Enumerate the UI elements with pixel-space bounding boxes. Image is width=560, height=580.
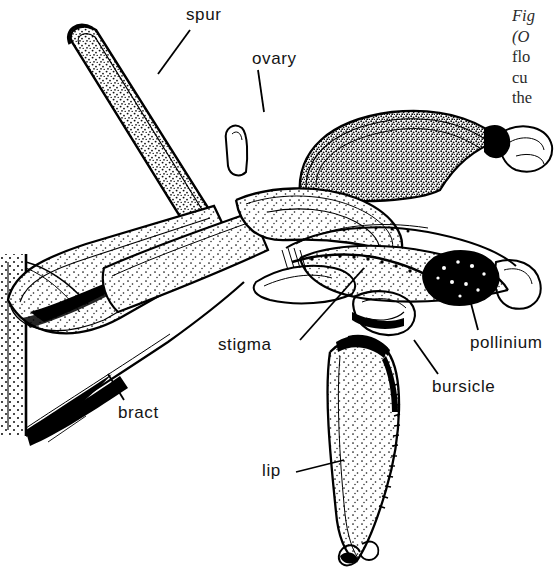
caption-line: (O <box>512 27 560 48</box>
label-ovary: ovary <box>252 50 297 67</box>
caption-line: the <box>512 88 560 109</box>
label-spur: spur <box>186 6 221 23</box>
caption-line: cu <box>512 68 560 89</box>
figure-caption: Fig(Oflocuthe <box>512 6 560 109</box>
caption-line: flo <box>512 47 560 68</box>
label-pollinium: pollinium <box>470 334 543 351</box>
label-lip: lip <box>262 462 281 479</box>
label-bursicle: bursicle <box>432 378 495 395</box>
label-bract: bract <box>118 404 159 421</box>
pollinium-mass <box>423 251 498 305</box>
label-stigma: stigma <box>218 336 272 353</box>
orchid-flower-illustration <box>0 0 560 580</box>
caption-line: Fig <box>512 6 560 27</box>
